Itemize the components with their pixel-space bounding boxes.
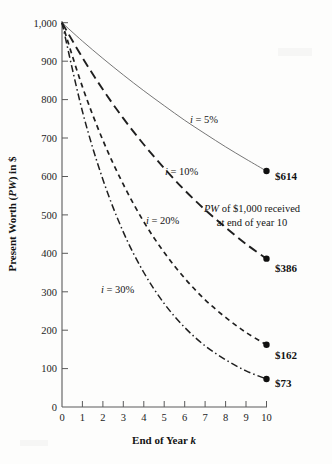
x-axis-tick-labels: 0 1 2 3 4 5 6 7 8 9 10: [59, 412, 271, 423]
x-axis-ticks: [82, 401, 266, 407]
curve-label-i-20-percent: i = 20%: [146, 215, 180, 226]
y-tick-label-400: 400: [41, 248, 57, 259]
y-tick-label-0: 0: [52, 402, 57, 413]
x-tick-label-1: 1: [80, 412, 85, 423]
x-tick-label-6: 6: [182, 412, 187, 423]
y-axis-title-italic: PW: [6, 179, 18, 197]
x-tick-label-10: 10: [261, 412, 272, 423]
endpoint-label-614: $614: [275, 170, 298, 182]
y-tick-label-500: 500: [41, 210, 57, 221]
x-tick-label-4: 4: [141, 412, 147, 423]
curve-label-30-rest: = 30%: [104, 284, 135, 295]
x-tick-label-0: 0: [59, 412, 64, 423]
curve-i-20-percent: [62, 23, 267, 345]
x-tick-label-7: 7: [202, 412, 207, 423]
endpoint-label-162: $162: [275, 349, 298, 361]
endpoint-label-73: $73: [275, 377, 292, 389]
y-tick-label-1000: 1,000: [33, 18, 57, 29]
chart-figure: 1,000 900 800 700 600 500 400 300 200 10…: [0, 0, 332, 464]
y-axis-title-pre: Present Worth (: [6, 196, 19, 271]
y-tick-label-700: 700: [41, 133, 57, 144]
x-tick-label-3: 3: [121, 412, 126, 423]
pw-annotation-rest: of $1,000 received: [219, 203, 301, 214]
y-tick-label-100: 100: [41, 363, 57, 374]
y-tick-label-900: 900: [41, 56, 57, 67]
x-tick-label-9: 9: [243, 412, 248, 423]
endpoint-dot-614: [263, 168, 269, 174]
y-axis-tick-labels: 1,000 900 800 700 600 500 400 300 200 10…: [33, 18, 57, 413]
endpoint-dot-162: [263, 342, 269, 348]
curve-label-10-rest: = 10%: [168, 166, 199, 177]
y-tick-label-800: 800: [41, 94, 57, 105]
x-tick-label-5: 5: [162, 412, 167, 423]
x-axis-title: End of Year k: [132, 434, 196, 446]
y-axis-ticks: [62, 23, 68, 369]
curve-label-5-rest: = 5%: [193, 114, 218, 125]
y-tick-label-600: 600: [41, 171, 57, 182]
y-tick-label-200: 200: [41, 325, 57, 336]
x-axis-title-italic: k: [190, 434, 196, 446]
curve-label-i-5-percent: i = 5%: [190, 114, 218, 125]
curve-i-5-percent: [62, 23, 267, 171]
pw-annotation-italic: PW: [203, 203, 220, 214]
endpoint-dot-386: [263, 255, 269, 261]
curve-label-i-10-percent: i = 10%: [165, 166, 199, 177]
curve-label-i-30-percent: i = 30%: [101, 284, 135, 295]
x-tick-label-2: 2: [100, 412, 105, 423]
endpoint-dot-73: [263, 376, 269, 382]
x-tick-label-8: 8: [223, 412, 228, 423]
y-axis-title: Present Worth (PW) in $: [6, 156, 19, 272]
pw-annotation-line-1: PW of $1,000 received: [203, 203, 301, 214]
axes-group: [62, 21, 267, 407]
x-axis-title-pre: End of Year: [132, 434, 190, 446]
curve-label-20-rest: = 20%: [149, 215, 180, 226]
endpoint-label-386: $386: [275, 262, 298, 274]
y-axis-title-post: ) in $: [6, 156, 19, 180]
present-worth-line-chart: 1,000 900 800 700 600 500 400 300 200 10…: [0, 0, 332, 464]
y-tick-label-300: 300: [41, 287, 57, 298]
pw-annotation-line-2: at end of year 10: [217, 217, 288, 228]
